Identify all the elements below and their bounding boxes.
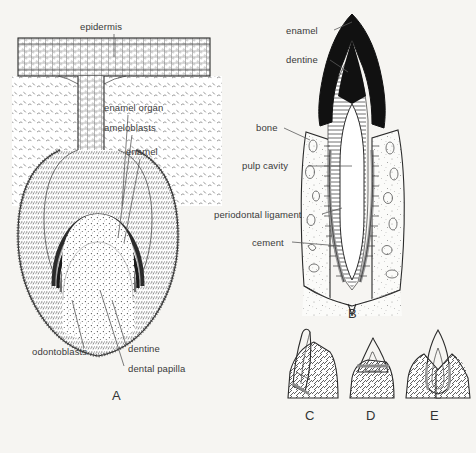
label-pulp-cavity: pulp cavity <box>242 160 288 171</box>
panel-b-letter: B <box>348 306 357 321</box>
panel-c-letter: C <box>305 408 314 423</box>
label-ameloblasts: ameloblasts <box>104 122 156 133</box>
label-dental-papilla: dental papilla <box>128 363 186 374</box>
figure-canvas: epidermis enamel organ ameloblasts ename… <box>0 0 476 453</box>
dental-histology-figure: epidermis enamel organ ameloblasts ename… <box>0 0 476 453</box>
label-odontoblasts: odontoblasts <box>32 346 87 357</box>
panel-d-letter: D <box>366 408 375 423</box>
label-enamel-b: enamel <box>286 25 318 36</box>
label-periodontal-ligament: periodontal ligament <box>214 209 302 220</box>
label-bone: bone <box>256 122 278 133</box>
label-dentine-a: dentine <box>128 343 160 354</box>
pulp-cavity <box>340 104 364 280</box>
label-cement: cement <box>252 237 284 248</box>
panel-e-letter: E <box>430 408 439 423</box>
label-epidermis: epidermis <box>80 21 122 32</box>
panel-a-letter: A <box>112 388 121 403</box>
alveolar-bone-right <box>372 130 404 300</box>
label-enamel: enamel <box>126 146 158 157</box>
label-enamel-organ: enamel organ <box>104 102 163 113</box>
label-dentine-b: dentine <box>286 54 318 65</box>
